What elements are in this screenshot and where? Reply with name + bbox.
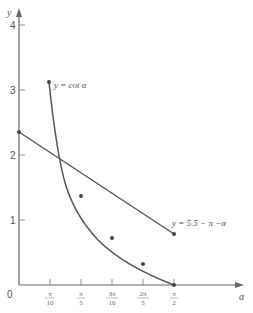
x-tick-pi-over-2: π 2 — [170, 290, 178, 307]
y-axis-label: y — [6, 7, 12, 18]
x-axis-label: α — [239, 291, 245, 302]
svg-text:2: 2 — [172, 299, 176, 307]
y-tick-label: 1 — [10, 215, 16, 226]
data-point — [47, 80, 51, 84]
svg-text:2π: 2π — [139, 290, 147, 298]
series-label-linear: y = 5.5 − π −α — [171, 218, 226, 228]
svg-text:5: 5 — [79, 299, 83, 307]
x-tick-3pi-over-10: 3π 10 — [106, 290, 118, 307]
svg-text:10: 10 — [47, 299, 55, 307]
y-tick-label: 2 — [10, 150, 16, 161]
svg-text:π: π — [172, 290, 176, 298]
x-axis-arrow-icon — [235, 282, 244, 288]
svg-text:3π: 3π — [108, 290, 116, 298]
series-cot: y = cot α — [47, 80, 176, 287]
x-ticks: π 10 π 5 3π 10 2π 5 π 2 — [45, 279, 178, 307]
data-point — [17, 130, 21, 134]
origin-label: 0 — [7, 289, 13, 300]
y-ticks: 1 2 3 4 — [10, 20, 25, 226]
y-tick-label: 4 — [10, 20, 16, 31]
svg-text:π: π — [79, 290, 83, 298]
data-point — [172, 283, 176, 287]
y-axis-arrow-icon — [16, 8, 22, 17]
y-axis — [16, 8, 22, 285]
x-axis — [19, 282, 244, 288]
svg-text:5: 5 — [141, 299, 145, 307]
series-label-cot: y = cot α — [53, 80, 87, 90]
x-tick-pi-over-10: π 10 — [45, 290, 55, 307]
series-linear: y = 5.5 − π −α — [17, 130, 226, 236]
data-point — [79, 194, 83, 198]
data-point — [110, 236, 114, 240]
y-tick-label: 3 — [10, 85, 16, 96]
svg-text:π: π — [48, 290, 52, 298]
data-point — [172, 232, 176, 236]
x-tick-2pi-over-5: 2π 5 — [137, 290, 149, 307]
data-point — [141, 262, 145, 266]
svg-text:10: 10 — [109, 299, 117, 307]
x-tick-pi-over-5: π 5 — [77, 290, 85, 307]
chart: y α 0 1 2 3 4 π 10 π 5 3π 10 — [0, 0, 253, 313]
